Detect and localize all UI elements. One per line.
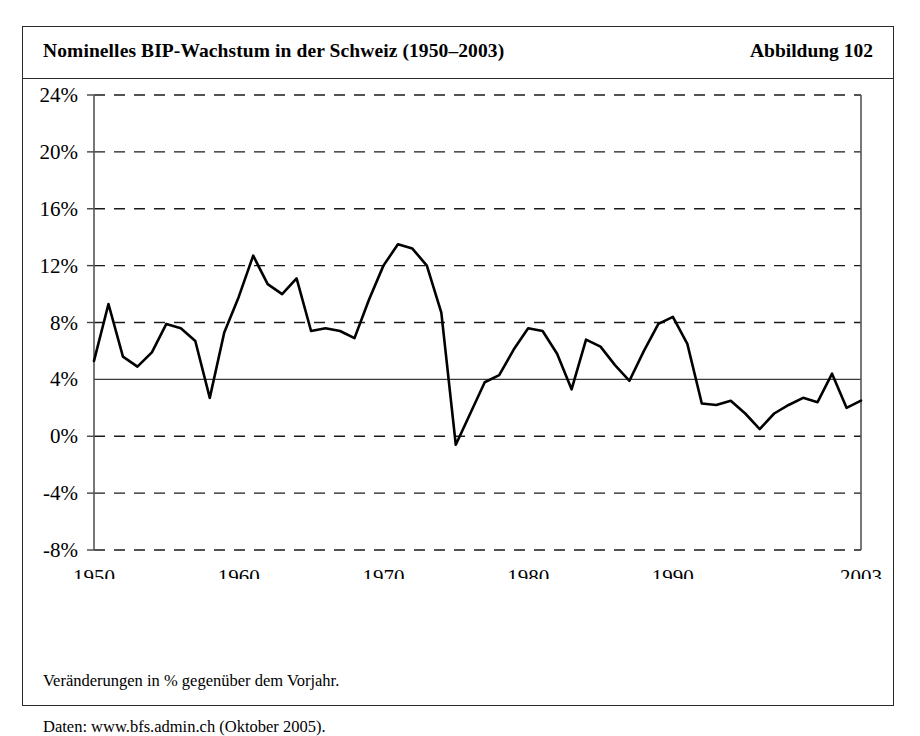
page-title: Nominelles BIP-Wachstum in der Schweiz (…	[43, 40, 504, 62]
plot-area: 24%20%16%12%8%4%0%-4%-8% 195019601970198…	[23, 79, 895, 705]
x-tick-label: 1960	[218, 565, 260, 579]
footnote-source: Daten: www.bfs.admin.ch (Oktober 2005).	[43, 717, 326, 736]
line-chart-svg: 24%20%16%12%8%4%0%-4%-8% 195019601970198…	[23, 79, 895, 579]
figure-title-bar: Nominelles BIP-Wachstum in der Schweiz (…	[23, 27, 893, 79]
x-tick-label: 1980	[507, 565, 549, 579]
y-tick-label: 16%	[40, 197, 79, 221]
y-tick-label: -8%	[43, 538, 78, 562]
y-tick-label: 4%	[50, 367, 78, 391]
figure-number-label: Abbildung 102	[750, 40, 873, 62]
y-axis-tick-labels: 24%20%16%12%8%4%0%-4%-8%	[40, 83, 79, 562]
x-tick-label: 1970	[362, 565, 404, 579]
x-tick-label: 2003	[840, 565, 882, 579]
x-axis-tick-labels: 195019601970198019902003	[73, 565, 882, 579]
data-series-group	[94, 244, 861, 444]
x-tick-label: 1990	[652, 565, 694, 579]
y-tick-label: -4%	[43, 481, 78, 505]
x-tick-label: 1950	[73, 565, 115, 579]
data-line-nominelles-bip-wachstum	[94, 244, 861, 444]
figure-container: Nominelles BIP-Wachstum in der Schweiz (…	[22, 26, 894, 706]
footnote-units: Veränderungen in % gegenüber dem Vorjahr…	[43, 671, 339, 691]
y-tick-label: 12%	[40, 254, 79, 278]
gridlines-group	[94, 95, 861, 550]
y-tick-label: 24%	[40, 83, 79, 107]
y-tick-label: 8%	[50, 311, 78, 335]
y-tick-label: 20%	[40, 140, 79, 164]
y-tick-label: 0%	[50, 424, 78, 448]
